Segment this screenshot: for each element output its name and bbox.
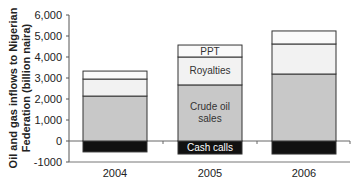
segment-label: PPT	[200, 46, 219, 57]
x-tick-label: 2006	[292, 167, 316, 179]
bar-2006	[272, 31, 336, 154]
y-tick-label: 1,000	[34, 114, 62, 126]
y-axis-title: Oil and gas inflows to NigerianFederatio…	[7, 7, 32, 168]
segment-ppt	[83, 71, 147, 79]
y-tick-label: 2,000	[34, 93, 62, 105]
svg-text:Oil and gas inflows to Nigeria: Oil and gas inflows to Nigerian	[7, 7, 19, 168]
y-tick-label: 0	[56, 135, 62, 147]
y-tick-label: -1000	[34, 156, 62, 168]
segment-royalties	[83, 79, 147, 96]
bar-2005: Cash callsCrude oilsalesRoyaltiesPPT	[178, 45, 242, 154]
segment-crude-oil-sales	[272, 74, 336, 141]
segment-cash-calls	[272, 141, 336, 154]
stacked-bar-chart: -100001,0002,0003,0004,0005,0006,000 Cas…	[0, 0, 358, 185]
y-tick-label: 5,000	[34, 30, 62, 42]
y-tick-label: 3,000	[34, 72, 62, 84]
x-tick-label: 2005	[198, 167, 222, 179]
segment-ppt	[272, 31, 336, 44]
segment-crude-oil-sales	[83, 96, 147, 141]
x-tick-label: 2004	[103, 167, 127, 179]
segment-label: sales	[198, 113, 221, 124]
segment-label: Cash calls	[187, 142, 233, 153]
segment-label: Royalties	[189, 65, 230, 76]
bars: Cash callsCrude oilsalesRoyaltiesPPT	[83, 31, 336, 154]
y-tick-label: 6,000	[34, 9, 62, 21]
segment-label: Crude oil	[190, 101, 230, 112]
y-tick-label: 4,000	[34, 51, 62, 63]
svg-text:Federation (billion naira): Federation (billion naira)	[20, 23, 32, 152]
segment-royalties	[272, 44, 336, 74]
bar-2004	[83, 71, 147, 152]
segment-cash-calls	[83, 141, 147, 152]
